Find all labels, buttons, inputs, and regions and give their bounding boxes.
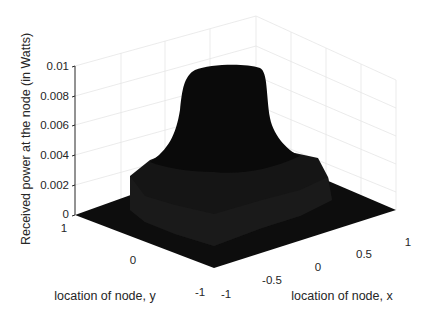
x-axis-label: location of node, x (291, 289, 393, 303)
y-tick-minus-1: -1 (195, 286, 205, 298)
z-tick-0.004: 0.004 (40, 149, 69, 161)
z-tick-0.002: 0.002 (40, 179, 69, 191)
z-tick-0: 0 (63, 208, 69, 220)
z-tick-0.006: 0.006 (40, 119, 69, 131)
x-tick-1: 1 (405, 236, 411, 248)
surface-peak (150, 65, 300, 173)
z-tick-0.01: 0.01 (47, 60, 69, 72)
z-axis-label: Received power at the node (in Watts) (19, 33, 33, 245)
z-axis: 0.01 0.008 0.006 0.004 0.002 0 Received … (19, 33, 75, 245)
x-tick-minus-0.5: -0.5 (262, 274, 282, 286)
surface (75, 65, 396, 268)
surface-chart: 0.01 0.008 0.006 0.004 0.002 0 Received … (0, 0, 428, 321)
z-tick-0.008: 0.008 (40, 90, 69, 102)
x-tick-minus-1: -1 (221, 288, 231, 300)
y-tick-0: 0 (130, 254, 136, 266)
x-tick-0.5: 0.5 (356, 248, 372, 260)
y-axis-label: location of node, y (54, 289, 156, 303)
y-tick-1: 1 (61, 222, 67, 234)
x-tick-0: 0 (315, 261, 321, 273)
